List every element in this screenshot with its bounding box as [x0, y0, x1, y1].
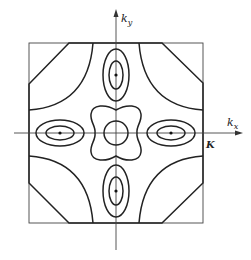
valley-top-center-dot — [114, 73, 117, 76]
kx-arrow-icon — [235, 131, 243, 136]
kx-label: kx — [227, 116, 239, 131]
corner-arc-bottom-right — [139, 156, 203, 223]
ky-arrow-icon — [114, 9, 119, 17]
valley-right-center-dot — [169, 131, 172, 134]
corner-arc-top-right — [139, 43, 203, 110]
corner-arc-bottom-left — [29, 156, 93, 223]
valley-bottom-center-dot — [114, 189, 117, 192]
ky-label: ky — [121, 12, 133, 27]
zone-boundary-label: K — [205, 139, 216, 150]
contour-diagram: ky kx K — [0, 0, 251, 260]
valley-left-center-dot — [58, 131, 61, 134]
corner-arc-top-left — [29, 43, 93, 110]
